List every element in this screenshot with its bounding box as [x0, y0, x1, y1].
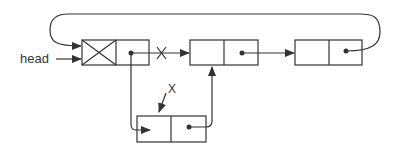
head-label: head [20, 51, 49, 66]
circular-link-arrow [50, 14, 380, 51]
linked-list-diagram: head X [0, 0, 403, 154]
insert-x-label: X [168, 82, 176, 96]
new-to-node2-arrow [189, 67, 212, 127]
insert-pointer-arrow [159, 93, 166, 112]
node-3 [295, 40, 362, 65]
new-node [137, 116, 206, 142]
